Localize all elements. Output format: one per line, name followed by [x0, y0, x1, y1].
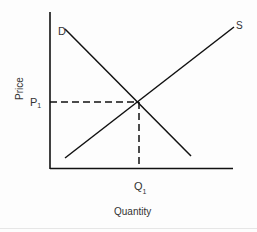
demand-label: D: [58, 25, 66, 37]
supply-demand-chart: D S Price P1 Q1 Quantity: [0, 0, 257, 232]
demand-curve: [65, 29, 191, 156]
p1-main: P: [30, 96, 37, 108]
bottom-divider: [0, 228, 257, 229]
price-axis-label: Price: [14, 77, 25, 100]
supply-curve: [65, 27, 234, 158]
supply-label: S: [236, 20, 243, 31]
p1-label: P1: [30, 96, 41, 109]
q1-sub: 1: [143, 188, 147, 195]
q1-label: Q1: [134, 180, 147, 195]
p1-sub: 1: [37, 102, 41, 109]
quantity-axis-label: Quantity: [114, 206, 151, 217]
